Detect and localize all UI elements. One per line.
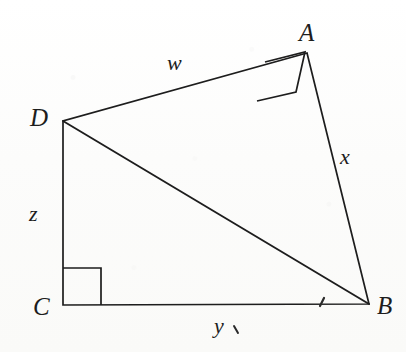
diagonal-db (63, 121, 369, 304)
side-label-x: x (340, 146, 350, 168)
vertex-label-d: D (30, 105, 48, 130)
side-label-z: z (29, 203, 38, 225)
side-label-w: w (167, 52, 182, 74)
vertex-label-b: B (377, 293, 392, 318)
quadrilateral-abcd (63, 53, 369, 305)
geometry-figure (0, 0, 406, 352)
vertex-label-c: C (33, 294, 50, 319)
right-angle-mark-c (63, 268, 101, 305)
diagram-canvas: A B C D w x y z (0, 0, 406, 352)
side-label-y: y (214, 315, 224, 337)
vertex-label-a: A (299, 20, 314, 45)
stray-comma-after-y (234, 326, 238, 333)
right-angle-mark-a (257, 52, 305, 101)
